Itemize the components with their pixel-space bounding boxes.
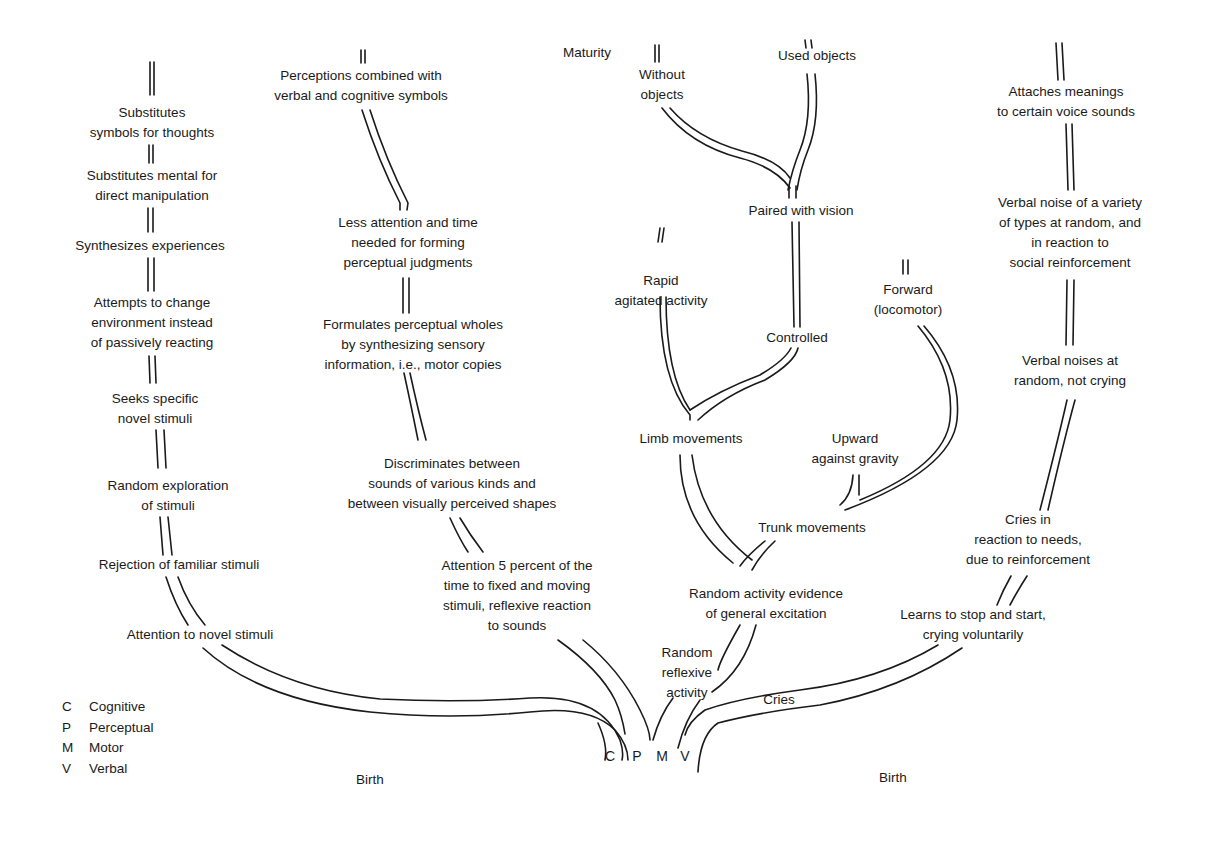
development-tree-diagram: Maturity Birth Birth C P M V Substitutes… (0, 0, 1213, 844)
legend-item-verbal: V Verbal (62, 759, 154, 780)
motor-node: Limb movements (640, 429, 743, 449)
perceptual-node: Discriminates betweensounds of various k… (348, 454, 557, 514)
maturity-label: Maturity (563, 43, 611, 63)
birth-label-left: Birth (356, 770, 384, 790)
root-letter-c: C (605, 748, 615, 764)
root-letter-v: V (680, 748, 689, 764)
cognitive-node: Synthesizes experiences (75, 236, 224, 256)
perceptual-node: Perceptions combined withverbal and cogn… (274, 66, 447, 106)
motor-node: Rapidagitated activity (614, 271, 707, 311)
motor-node: Controlled (766, 328, 828, 348)
motor-node: Randomreflexiveactivity (661, 643, 712, 703)
motor-node: Withoutobjects (639, 65, 685, 105)
verbal-branch (685, 43, 1075, 772)
cognitive-node: Rejection of familiar stimuli (99, 555, 260, 575)
legend-item-motor: M Motor (62, 738, 154, 759)
verbal-node: Cries (763, 690, 795, 710)
verbal-node: Verbal noises atrandom, not crying (1014, 351, 1126, 391)
motor-node: Forward(locomotor) (874, 280, 942, 320)
motor-node: Trunk movements (758, 518, 866, 538)
perceptual-branch (361, 50, 650, 740)
cognitive-node: Seeks specificnovel stimuli (112, 389, 198, 429)
verbal-node: Verbal noise of a varietyof types at ran… (998, 193, 1142, 273)
legend: C Cognitive P Perceptual M Motor V Verba… (62, 697, 154, 779)
cognitive-node: Attention to novel stimuli (127, 625, 273, 645)
perceptual-node: Formulates perceptual wholesby synthesiz… (323, 315, 503, 375)
perceptual-node: Less attention and timeneeded for formin… (338, 213, 478, 273)
birth-label-right: Birth (879, 768, 907, 788)
root-letter-p: P (632, 748, 641, 764)
cognitive-node: Substitutessymbols for thoughts (90, 103, 215, 143)
cognitive-node: Random explorationof stimuli (108, 476, 229, 516)
perceptual-node: Attention 5 percent of thetime to fixed … (442, 556, 593, 636)
legend-item-cognitive: C Cognitive (62, 697, 154, 718)
root-letter-m: M (656, 748, 668, 764)
motor-node: Random activity evidenceof general excit… (689, 584, 843, 624)
verbal-node: Attaches meaningsto certain voice sounds (997, 82, 1135, 122)
cognitive-branch (148, 62, 628, 760)
motor-node: Used objects (778, 46, 856, 66)
verbal-node: Learns to stop and start,crying voluntar… (900, 605, 1046, 645)
motor-node: Paired with vision (748, 201, 853, 221)
cognitive-node: Attempts to changeenvironment insteadof … (91, 293, 213, 353)
cognitive-node: Substitutes mental fordirect manipulatio… (87, 166, 218, 206)
motor-node: Upwardagainst gravity (811, 429, 898, 469)
verbal-node: Cries inreaction to needs,due to reinfor… (966, 510, 1090, 570)
legend-item-perceptual: P Perceptual (62, 718, 154, 739)
